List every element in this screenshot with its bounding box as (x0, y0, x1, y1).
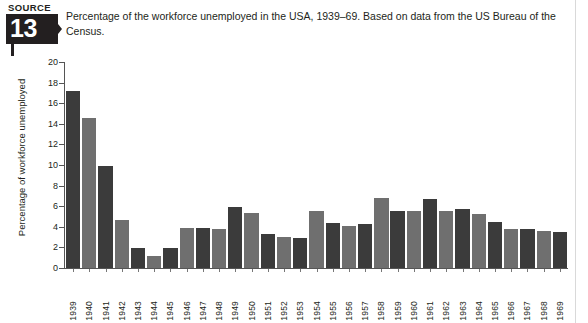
x-tick-mark (479, 269, 480, 272)
x-tick-mark (414, 269, 415, 272)
bar (390, 211, 404, 268)
bar (488, 222, 502, 268)
x-tick-label: 1953 (295, 301, 305, 321)
bar (423, 199, 437, 268)
x-tick-mark (284, 269, 285, 272)
x-tick-mark (235, 269, 236, 272)
x-tick-label: 1951 (263, 301, 273, 321)
y-axis-label: Percentage of workforce unemployed (16, 53, 27, 263)
bar-chart: Percentage of workforce unemployed 02468… (0, 56, 588, 323)
x-tick-label: 1939 (68, 301, 78, 321)
bar (163, 248, 177, 268)
x-tick-label: 1956 (344, 301, 354, 321)
bar (504, 229, 518, 268)
bar (115, 220, 129, 268)
source-caption: Percentage of the workforce unemployed i… (66, 9, 574, 38)
x-tick-mark (300, 269, 301, 272)
bar (147, 256, 161, 268)
x-tick-label: 1969 (555, 301, 565, 321)
x-tick-mark (527, 269, 528, 272)
x-tick-mark (268, 269, 269, 272)
x-tick-label: 1941 (101, 301, 111, 321)
bar (196, 228, 210, 268)
x-tick-mark (560, 269, 561, 272)
x-tick-label: 1958 (376, 301, 386, 321)
bar (66, 91, 80, 268)
bar (326, 223, 340, 268)
x-tick-label: 1962 (441, 301, 451, 321)
x-tick-mark (122, 269, 123, 272)
y-tick-label: 10 (48, 160, 58, 170)
bar (82, 118, 96, 268)
x-tick-mark (544, 269, 545, 272)
y-tick-label: 2 (53, 242, 58, 252)
x-tick-mark (73, 269, 74, 272)
y-tick-label: 12 (48, 139, 58, 149)
y-tick-label: 14 (48, 119, 58, 129)
x-tick-mark (170, 269, 171, 272)
x-tick-label: 1967 (522, 301, 532, 321)
bar (439, 211, 453, 268)
x-tick-label: 1950 (247, 301, 257, 321)
x-tick-label: 1946 (182, 301, 192, 321)
source-label: SOURCE (8, 2, 51, 13)
x-tick-label: 1963 (458, 301, 468, 321)
source-header: SOURCE 13 Percentage of the workforce un… (0, 0, 588, 56)
y-tick-label: 6 (53, 201, 58, 211)
x-tick-mark (154, 269, 155, 272)
bar (277, 237, 291, 268)
y-tick-label: 16 (48, 98, 58, 108)
bar (455, 209, 469, 268)
bar (407, 211, 421, 268)
x-tick-mark (252, 269, 253, 272)
x-tick-mark (317, 269, 318, 272)
x-tick-label: 1968 (539, 301, 549, 321)
bar (244, 213, 258, 268)
x-tick-label: 1945 (165, 301, 175, 321)
badge-stem (11, 44, 14, 56)
x-tick-label: 1949 (230, 301, 240, 321)
bar (131, 248, 145, 268)
x-tick-label: 1943 (133, 301, 143, 321)
x-tick-label: 1965 (490, 301, 500, 321)
x-tick-mark (398, 269, 399, 272)
bar (98, 166, 112, 268)
bar (472, 214, 486, 268)
x-tick-mark (446, 269, 447, 272)
bar (212, 229, 226, 268)
x-tick-mark (463, 269, 464, 272)
x-axis-ticks: 1939194019411942194319441945194619471948… (65, 269, 568, 321)
x-tick-mark (333, 269, 334, 272)
x-tick-label: 1948 (214, 301, 224, 321)
y-tick-label: 20 (48, 57, 58, 67)
y-tick-label: 8 (53, 181, 58, 191)
x-tick-mark (187, 269, 188, 272)
x-tick-label: 1947 (198, 301, 208, 321)
bar (342, 226, 356, 268)
x-tick-mark (511, 269, 512, 272)
bar (520, 229, 534, 268)
x-tick-label: 1959 (393, 301, 403, 321)
x-tick-label: 1964 (474, 301, 484, 321)
x-tick-label: 1960 (409, 301, 419, 321)
x-tick-mark (495, 269, 496, 272)
x-tick-mark (106, 269, 107, 272)
x-tick-label: 1955 (328, 301, 338, 321)
x-tick-mark (365, 269, 366, 272)
y-tick-label: 18 (48, 78, 58, 88)
y-axis-ticks: 02468101214161820 (34, 56, 64, 271)
x-tick-mark (381, 269, 382, 272)
x-tick-label: 1940 (84, 301, 94, 321)
y-tick-label: 4 (53, 222, 58, 232)
x-tick-mark (89, 269, 90, 272)
x-tick-mark (219, 269, 220, 272)
x-tick-label: 1952 (279, 301, 289, 321)
bar (180, 228, 194, 268)
x-tick-label: 1961 (425, 301, 435, 321)
bar (293, 238, 307, 268)
bar (309, 211, 323, 268)
x-tick-label: 1954 (312, 301, 322, 321)
y-tick-label: 0 (53, 263, 58, 273)
source-number: 13 (10, 14, 58, 44)
plot-area (65, 62, 568, 268)
